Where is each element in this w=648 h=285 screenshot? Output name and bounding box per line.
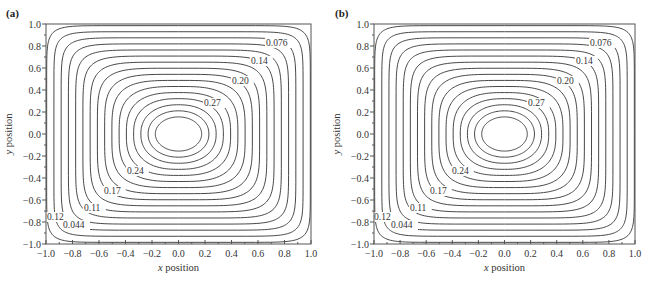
- y-tick-label: −0.6: [351, 195, 369, 206]
- x-tick-label: −1.0: [37, 248, 55, 259]
- contour-line: [148, 111, 209, 157]
- x-tick-label: −0.4: [116, 248, 134, 259]
- x-tick-label: 0.6: [577, 248, 590, 259]
- y-tick-label: −0.4: [23, 173, 41, 184]
- contour-label: 0.17: [430, 186, 447, 196]
- y-tick-label: 0.8: [29, 41, 42, 52]
- y-tick-label: −0.8: [23, 217, 41, 228]
- y-tick-label: 0.0: [357, 129, 370, 140]
- contour-label: 0.076: [590, 38, 612, 48]
- contour-line: [482, 117, 528, 151]
- y-tick-label: 0.8: [357, 41, 370, 52]
- contour-label: 0.24: [452, 166, 469, 176]
- x-tick-label: 0.2: [524, 248, 537, 259]
- contour-label: 0.24: [127, 166, 144, 176]
- y-tick-label: −1.0: [351, 239, 369, 250]
- y-axis-title: y position: [3, 113, 14, 156]
- y-tick-label: −0.6: [23, 195, 41, 206]
- x-axis-title: x position: [157, 262, 200, 273]
- contour-line: [134, 99, 224, 170]
- y-tick-label: −0.4: [351, 173, 369, 184]
- contour-line: [425, 68, 585, 200]
- contour-line: [396, 44, 613, 224]
- y-tick-label: −1.0: [23, 239, 41, 250]
- contour-label: 0.11: [410, 203, 427, 213]
- y-tick-label: 0.6: [29, 63, 42, 74]
- x-tick-label: 1.0: [305, 248, 318, 259]
- y-tick-label: 0.4: [29, 85, 42, 96]
- x-tick-label: 0.6: [252, 248, 265, 259]
- x-tick-label: 0.0: [172, 248, 185, 259]
- contour-line: [61, 38, 296, 230]
- contour-label: 0.076: [266, 38, 288, 48]
- y-tick-label: −0.8: [351, 217, 369, 228]
- contour-line: [155, 117, 201, 151]
- contour-label: 0.11: [84, 203, 101, 213]
- x-tick-label: 1.0: [629, 248, 642, 259]
- panel-label: (a): [6, 7, 19, 20]
- contour-figure: (a)0.0760.140.200.270.240.170.110.120.04…: [0, 0, 648, 285]
- x-tick-label: −0.8: [63, 248, 81, 259]
- x-tick-label: 0.2: [199, 248, 212, 259]
- panel-a: (a)0.0760.140.200.270.240.170.110.120.04…: [3, 7, 317, 273]
- y-tick-label: 1.0: [29, 19, 42, 30]
- x-tick-label: 0.4: [550, 248, 563, 259]
- contour-label: 0.14: [251, 56, 268, 66]
- y-tick-label: 0.2: [29, 107, 42, 118]
- x-tick-label: 0.8: [603, 248, 616, 259]
- contour-line: [97, 68, 259, 200]
- contour-label: 0.20: [232, 76, 249, 86]
- contour-label: 0.27: [204, 98, 221, 108]
- contour-label: 0.12: [374, 212, 391, 222]
- x-tick-label: −0.6: [90, 248, 108, 259]
- panel-label: (b): [335, 7, 349, 20]
- y-tick-label: −0.2: [351, 151, 369, 162]
- x-tick-label: −0.2: [469, 248, 487, 259]
- x-tick-label: −1.0: [365, 248, 383, 259]
- contour-label: 0.17: [104, 186, 121, 196]
- contour-line: [467, 105, 541, 164]
- x-tick-label: 0.4: [225, 248, 238, 259]
- contour-line: [460, 99, 548, 170]
- x-tick-label: 0.0: [498, 248, 511, 259]
- y-tick-label: 0.2: [357, 107, 370, 118]
- y-tick-label: 0.0: [29, 129, 42, 140]
- x-tick-label: −0.2: [143, 248, 161, 259]
- y-tick-label: 0.6: [357, 63, 370, 74]
- contour-line: [475, 111, 535, 157]
- contour-label: 0.044: [63, 220, 85, 230]
- contour-label: 0.044: [391, 220, 413, 230]
- y-tick-label: 1.0: [357, 19, 370, 30]
- x-tick-label: −0.4: [443, 248, 461, 259]
- contour-line: [389, 38, 620, 230]
- contour-line: [68, 44, 288, 224]
- x-axis-title: x position: [483, 262, 526, 273]
- contour-label: 0.12: [47, 212, 64, 222]
- contour-label: 0.27: [528, 98, 545, 108]
- y-tick-label: −0.2: [23, 151, 41, 162]
- contour-line: [141, 105, 216, 164]
- x-tick-label: 0.8: [278, 248, 291, 259]
- y-axis-title: y position: [331, 113, 342, 156]
- contour-label: 0.14: [576, 56, 593, 66]
- panel-b: (b)0.0760.140.200.270.240.170.110.120.04…: [331, 7, 641, 273]
- y-tick-label: 0.4: [357, 85, 370, 96]
- x-tick-label: −0.8: [391, 248, 409, 259]
- x-tick-label: −0.6: [417, 248, 435, 259]
- contour-label: 0.20: [557, 76, 574, 86]
